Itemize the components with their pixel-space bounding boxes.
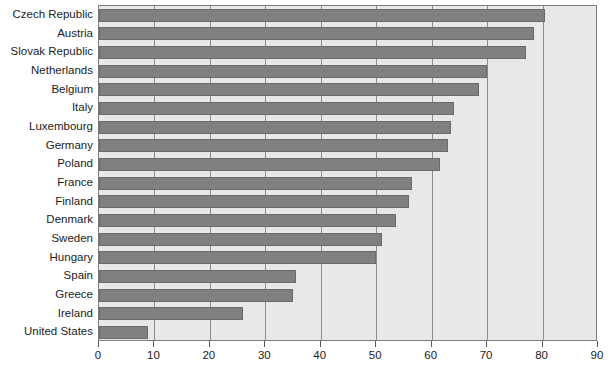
- bar-chart: Czech RepublicAustriaSlovak RepublicNeth…: [0, 0, 614, 375]
- axis-tick-label: 50: [369, 349, 382, 361]
- axis-tick: [431, 341, 432, 347]
- value-axis: 0102030405060708090: [98, 341, 597, 371]
- axis-tick-label: 30: [258, 349, 271, 361]
- category-label: Austria: [57, 24, 93, 43]
- bar: [99, 9, 545, 22]
- bar: [99, 289, 293, 302]
- bar: [99, 326, 148, 339]
- bar: [99, 46, 526, 59]
- axis-tick-label: 10: [147, 349, 160, 361]
- category-label: Netherlands: [31, 61, 93, 80]
- axis-tick-label: 0: [95, 349, 101, 361]
- bar-row: [99, 323, 596, 342]
- bar: [99, 307, 243, 320]
- bar: [99, 83, 479, 96]
- category-label: Spain: [64, 266, 93, 285]
- bar-row: [99, 25, 596, 44]
- bar-row: [99, 137, 596, 156]
- category-label: Italy: [72, 98, 93, 117]
- bar: [99, 195, 409, 208]
- bar-row: [99, 6, 596, 25]
- axis-tick: [264, 341, 265, 347]
- category-axis-labels: Czech RepublicAustriaSlovak RepublicNeth…: [0, 5, 93, 341]
- category-label: Sweden: [51, 229, 93, 248]
- bar: [99, 65, 487, 78]
- axis-tick: [597, 341, 598, 347]
- bar-row: [99, 305, 596, 324]
- bar-series: [99, 6, 596, 340]
- bar: [99, 139, 448, 152]
- bar-row: [99, 81, 596, 100]
- axis-tick-label: 80: [535, 349, 548, 361]
- bar: [99, 214, 396, 227]
- bar-row: [99, 174, 596, 193]
- bar-row: [99, 118, 596, 137]
- bar: [99, 233, 382, 246]
- category-label: Greece: [55, 285, 93, 304]
- axis-tick-label: 70: [480, 349, 493, 361]
- bar-row: [99, 43, 596, 62]
- bar: [99, 177, 412, 190]
- bar-row: [99, 211, 596, 230]
- axis-tick-label: 40: [313, 349, 326, 361]
- category-label: Luxembourg: [29, 117, 93, 136]
- axis-tick: [542, 341, 543, 347]
- bar-row: [99, 230, 596, 249]
- axis-tick: [320, 341, 321, 347]
- bar-row: [99, 62, 596, 81]
- axis-tick: [153, 341, 154, 347]
- axis-tick-label: 20: [202, 349, 215, 361]
- bar: [99, 27, 534, 40]
- category-label: France: [57, 173, 93, 192]
- bar: [99, 102, 454, 115]
- axis-tick: [98, 341, 99, 347]
- bar-row: [99, 99, 596, 118]
- bar: [99, 251, 376, 264]
- category-label: Finland: [55, 192, 93, 211]
- axis-tick: [486, 341, 487, 347]
- axis-tick: [209, 341, 210, 347]
- bar: [99, 270, 296, 283]
- bar-row: [99, 286, 596, 305]
- category-label: Ireland: [58, 304, 93, 323]
- category-label: Denmark: [46, 210, 93, 229]
- category-label: Czech Republic: [12, 5, 93, 24]
- axis-tick-label: 90: [591, 349, 604, 361]
- category-label: Hungary: [50, 248, 93, 267]
- category-label: United States: [24, 322, 93, 341]
- plot-area: [98, 5, 597, 341]
- bar: [99, 158, 440, 171]
- axis-tick: [375, 341, 376, 347]
- bar: [99, 121, 451, 134]
- bar-row: [99, 267, 596, 286]
- category-label: Germany: [46, 136, 93, 155]
- category-label: Poland: [57, 154, 93, 173]
- bar-row: [99, 193, 596, 212]
- bar-row: [99, 155, 596, 174]
- category-label: Slovak Republic: [11, 42, 93, 61]
- category-label: Belgium: [51, 80, 93, 99]
- axis-tick-label: 60: [424, 349, 437, 361]
- bar-row: [99, 249, 596, 268]
